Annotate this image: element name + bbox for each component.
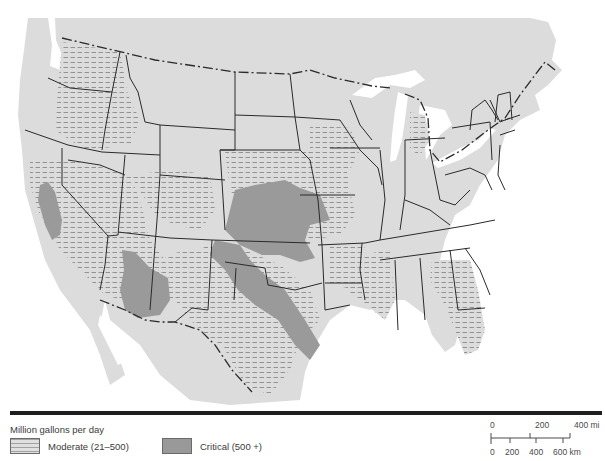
scale-bar: 0 200 400 mi 0 200 400 600 km — [486, 420, 601, 460]
scale-km-600: 600 km — [553, 447, 581, 457]
scale-mi-200: 200 — [535, 420, 549, 430]
legend-title: Million gallons per day — [10, 424, 104, 435]
critical-swatch — [162, 438, 192, 454]
scale-km-400: 400 — [529, 447, 543, 457]
moderate-swatch — [10, 438, 40, 454]
us-water-deficit-map — [0, 0, 605, 405]
scale-mi-400: 400 mi — [574, 420, 600, 430]
scale-km-200: 200 — [505, 447, 519, 457]
scale-mi-0: 0 — [490, 420, 495, 430]
scale-bar-lines — [490, 432, 600, 446]
legend-item-critical: Critical (500 +) — [162, 438, 262, 454]
scale-km-0: 0 — [490, 447, 495, 457]
moderate-label: Moderate (21–500) — [48, 441, 129, 452]
critical-label: Critical (500 +) — [200, 441, 262, 452]
legend-item-moderate: Moderate (21–500) — [10, 438, 129, 454]
legend-divider — [10, 411, 602, 415]
